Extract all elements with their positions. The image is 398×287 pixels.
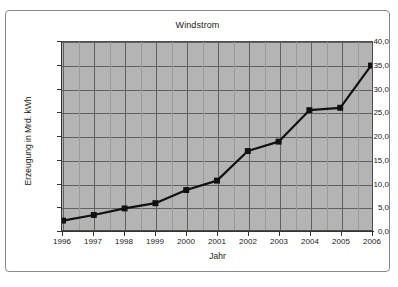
y-tick-mark — [57, 231, 61, 232]
y-tick-label: 35,0 — [341, 61, 389, 70]
x-tick-mark — [186, 232, 187, 236]
data-point-marker — [122, 205, 128, 211]
x-tick-mark — [93, 232, 94, 236]
x-axis-title: Jahr — [61, 251, 374, 261]
y-tick-label: 25,0 — [341, 108, 389, 117]
y-tick-label: 40,0 — [341, 37, 389, 46]
data-point-marker — [91, 212, 97, 218]
y-tick-mark — [57, 184, 61, 185]
y-tick-mark — [57, 112, 61, 113]
x-tick-mark — [372, 232, 373, 236]
y-tick-mark — [57, 207, 61, 208]
data-point-marker — [276, 139, 282, 145]
series-windstrom — [62, 42, 372, 230]
y-tick-mark — [57, 160, 61, 161]
y-tick-mark — [57, 89, 61, 90]
y-tick-mark — [57, 41, 61, 42]
x-tick-mark — [248, 232, 249, 236]
plot-area — [61, 41, 373, 231]
data-point-marker — [245, 148, 251, 154]
data-point-marker — [306, 107, 312, 113]
x-tick-mark — [62, 232, 63, 236]
chart-frame: Windstrom 0,05,010,015,020,025,030,035,0… — [5, 10, 390, 272]
x-tick-mark — [124, 232, 125, 236]
x-tick-label: 2006 — [350, 237, 394, 246]
data-point-marker — [183, 187, 189, 193]
chart-title: Windstrom — [6, 20, 389, 30]
x-tick-mark — [310, 232, 311, 236]
y-tick-label: 20,0 — [341, 132, 389, 141]
y-tick-label: 0,0 — [341, 227, 389, 236]
y-axis-line — [61, 41, 62, 232]
y-tick-label: 10,0 — [341, 180, 389, 189]
y-tick-label: 30,0 — [341, 85, 389, 94]
x-tick-mark — [155, 232, 156, 236]
y-tick-mark — [57, 136, 61, 137]
data-point-marker — [152, 200, 158, 206]
series-markers — [61, 63, 373, 224]
data-point-marker — [214, 178, 220, 184]
y-tick-mark — [57, 65, 61, 66]
y-axis-title: Erzeugung in Mrd. kWh — [23, 56, 33, 226]
y-tick-label: 5,0 — [341, 203, 389, 212]
x-tick-mark — [279, 232, 280, 236]
x-tick-mark — [217, 232, 218, 236]
y-tick-label: 15,0 — [341, 156, 389, 165]
x-tick-mark — [341, 232, 342, 236]
series-line — [63, 66, 371, 221]
